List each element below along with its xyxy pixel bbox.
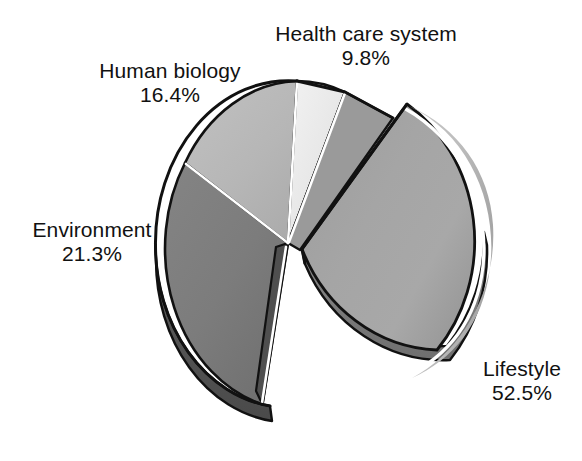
label-environment: Environment 21.3% bbox=[12, 218, 172, 265]
pie-chart-figure: Health care system 9.8% Human biology 16… bbox=[0, 0, 582, 461]
label-environment-percent: 21.3% bbox=[12, 242, 172, 266]
label-human-biology: Human biology 16.4% bbox=[74, 59, 266, 106]
label-lifestyle: Lifestyle 52.5% bbox=[468, 357, 576, 404]
label-lifestyle-category: Lifestyle bbox=[468, 357, 576, 381]
label-health-care-system-percent: 9.8% bbox=[270, 46, 462, 70]
label-human-biology-percent: 16.4% bbox=[74, 83, 266, 107]
label-health-care-system-category: Health care system bbox=[270, 22, 462, 46]
label-health-care-system: Health care system 9.8% bbox=[270, 22, 462, 69]
label-human-biology-category: Human biology bbox=[74, 59, 266, 83]
label-environment-category: Environment bbox=[12, 218, 172, 242]
label-lifestyle-percent: 52.5% bbox=[468, 381, 576, 405]
